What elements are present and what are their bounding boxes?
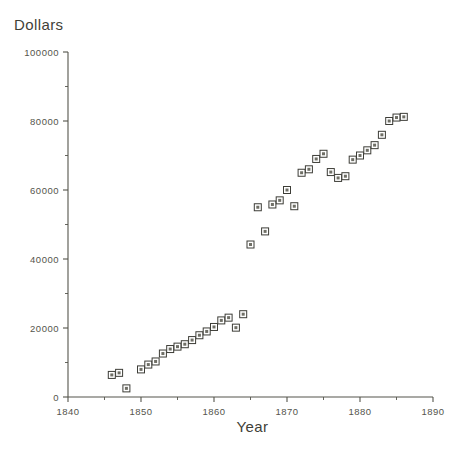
scatter-plot-figure: Dollars 020000400006000080000100000 1840…	[0, 0, 457, 449]
data-point	[159, 350, 166, 357]
data-point	[240, 311, 247, 318]
data-point	[145, 361, 152, 368]
data-point	[181, 341, 188, 348]
y-tick-label: 80000	[30, 116, 59, 127]
data-point	[232, 324, 239, 331]
data-point	[247, 241, 254, 248]
data-point	[269, 201, 276, 208]
y-tick-label: 100000	[24, 47, 59, 58]
data-point	[284, 187, 291, 194]
x-tick-label: 1880	[348, 406, 371, 417]
x-tick-label: 1890	[421, 406, 444, 417]
x-tick-label: 1840	[56, 406, 79, 417]
y-axis-ticks: 020000400006000080000100000	[24, 47, 68, 403]
data-point	[400, 113, 407, 120]
data-point	[320, 150, 327, 157]
x-axis-title-text: Year	[237, 418, 269, 435]
x-tick-label: 1870	[275, 406, 298, 417]
data-point	[203, 328, 210, 335]
y-tick-label: 0	[53, 392, 59, 403]
axes-group	[68, 52, 433, 397]
data-point	[138, 366, 145, 373]
y-tick-label: 40000	[30, 254, 59, 265]
data-point	[218, 317, 225, 324]
data-point	[371, 142, 378, 149]
data-point	[349, 156, 356, 163]
data-point	[108, 371, 115, 378]
data-point	[393, 114, 400, 121]
data-point	[276, 197, 283, 204]
x-axis-ticks: 184018501860187018801890	[56, 397, 444, 417]
data-point	[305, 166, 312, 173]
data-point	[167, 346, 174, 353]
data-point	[327, 169, 334, 176]
data-point	[123, 385, 130, 392]
data-point	[364, 147, 371, 154]
data-point	[189, 337, 196, 344]
data-point	[262, 228, 269, 235]
data-point	[152, 358, 159, 365]
x-tick-label: 1860	[202, 406, 225, 417]
data-point	[386, 118, 393, 125]
data-point	[225, 314, 232, 321]
data-point	[313, 155, 320, 162]
data-point	[211, 323, 218, 330]
data-point	[196, 332, 203, 339]
data-point	[357, 152, 364, 159]
y-tick-label: 20000	[30, 323, 59, 334]
y-axis-title: Dollars	[14, 16, 63, 33]
data-point	[298, 169, 305, 176]
y-tick-label: 60000	[30, 185, 59, 196]
data-point	[116, 369, 123, 376]
data-point	[254, 204, 261, 211]
data-points-group	[108, 113, 407, 392]
x-axis-title: Year	[0, 418, 457, 435]
data-point	[291, 203, 298, 210]
data-point	[378, 131, 385, 138]
x-tick-label: 1850	[129, 406, 152, 417]
plot-canvas: 020000400006000080000100000 184018501860…	[0, 0, 457, 449]
data-point	[335, 174, 342, 181]
data-point	[174, 343, 181, 350]
data-point	[342, 173, 349, 180]
